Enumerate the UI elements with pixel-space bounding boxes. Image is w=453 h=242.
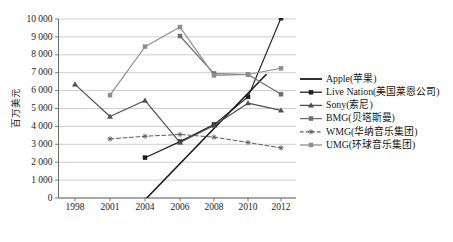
data-point-marker — [143, 45, 147, 49]
line-chart: 01 0002 0003 0004 0005 0006 0007 0008 00… — [0, 0, 453, 242]
data-point-marker — [309, 143, 313, 147]
data-point-marker — [177, 132, 182, 137]
x-axis-tick-label: 2001 — [101, 202, 120, 212]
y-axis-tick-label: 7 000 — [31, 67, 53, 77]
data-point-marker — [246, 72, 250, 76]
x-axis-tick-label: 1998 — [66, 202, 85, 212]
y-axis-tick-label: 10 000 — [26, 14, 52, 24]
y-axis-tick-label: 8 000 — [31, 49, 53, 59]
data-point-marker — [308, 129, 313, 134]
y-axis-tick-label: 3 000 — [31, 139, 53, 149]
y-axis-title: 百万美元 — [10, 88, 21, 128]
data-point-marker — [108, 93, 112, 97]
y-axis-tick-label: 1 000 — [31, 175, 53, 185]
y-axis-tick-label: 0 — [48, 193, 53, 203]
data-point-marker — [278, 145, 283, 150]
data-point-marker — [107, 136, 112, 141]
legend-label: WMG(华纳音乐集团) — [326, 125, 418, 138]
data-point-marker — [279, 92, 283, 96]
x-axis-tick-label: 2004 — [136, 202, 155, 212]
y-axis-tick-label: 5 000 — [31, 103, 53, 113]
legend-label: Sony(索尼) — [326, 98, 373, 111]
y-axis-title-group: 百万美元 — [10, 88, 21, 128]
legend-label: BMG(贝塔斯曼) — [326, 111, 395, 124]
legend-label: UMG(环球音乐集团) — [326, 138, 415, 151]
chart-container: 01 0002 0003 0004 0005 0006 0007 0008 00… — [0, 0, 453, 242]
data-point-marker — [212, 73, 216, 77]
data-point-marker — [142, 134, 147, 139]
x-axis-tick-label: 2006 — [171, 202, 190, 212]
data-point-marker — [178, 25, 182, 29]
data-point-marker — [309, 90, 313, 94]
data-point-marker — [279, 66, 283, 70]
legend-label: Live Nation(美国莱恩公司) — [326, 85, 440, 98]
y-axis-tick-label: 4 000 — [31, 121, 53, 131]
x-axis-tick-label: 2012 — [272, 202, 291, 212]
data-point-marker — [143, 156, 147, 160]
y-axis-tick-label: 9 000 — [31, 32, 53, 42]
data-point-marker — [246, 95, 250, 99]
data-point-marker — [245, 140, 250, 145]
y-axis-tick-label: 2 000 — [31, 157, 53, 167]
data-point-marker — [309, 117, 313, 121]
data-point-marker — [211, 135, 216, 140]
data-point-marker — [178, 34, 182, 38]
legend-label: Apple(苹果) — [326, 72, 376, 85]
x-axis-tick-label: 2010 — [239, 202, 258, 212]
y-axis-tick-label: 6 000 — [31, 85, 53, 95]
x-axis-tick-label: 2008 — [205, 202, 224, 212]
